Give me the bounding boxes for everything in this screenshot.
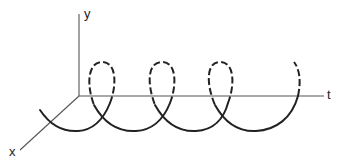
x-axis-label: x (9, 145, 16, 158)
helix-diagram (0, 0, 341, 166)
helix-front-arcs (40, 96, 298, 131)
helix-back-loops (89, 62, 299, 105)
y-axis-label: y (84, 7, 91, 20)
x-axis (20, 96, 79, 150)
t-axis-label: t (327, 88, 331, 101)
